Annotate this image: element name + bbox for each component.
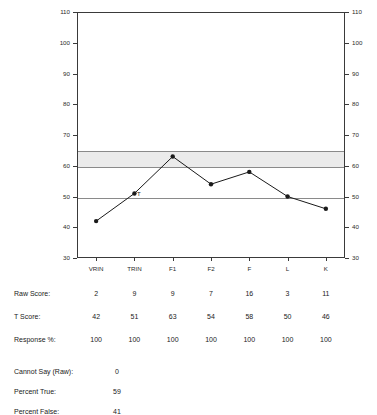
summary-label: Cannot Say (Raw): bbox=[14, 368, 73, 375]
data-point-F1 bbox=[171, 154, 175, 158]
y-tick-mark-right-80 bbox=[345, 104, 349, 105]
y-tick-label-left-70: 70 bbox=[44, 132, 70, 138]
y-tick-mark-right-60 bbox=[345, 166, 349, 167]
x-axis-label-F: F bbox=[229, 266, 269, 272]
x-axis-label-F2: F2 bbox=[191, 266, 231, 272]
y-tick-label-left-100: 100 bbox=[44, 40, 70, 46]
y-tick-label-right-30: 30 bbox=[352, 255, 377, 261]
y-tick-mark-right-70 bbox=[345, 135, 349, 136]
summary-label: Percent False: bbox=[14, 408, 59, 415]
table-cell-L: 3 bbox=[268, 290, 308, 297]
y-tick-label-right-70: 70 bbox=[352, 132, 377, 138]
table-cell-K: 11 bbox=[306, 290, 346, 297]
y-tick-label-left-30: 30 bbox=[44, 255, 70, 261]
y-tick-label-left-90: 90 bbox=[44, 71, 70, 77]
table-cell-TRIN: 100 bbox=[114, 336, 154, 343]
data-point-VRIN bbox=[94, 219, 98, 223]
y-tick-mark-right-30 bbox=[345, 258, 349, 259]
series-line-t-score bbox=[96, 157, 326, 222]
table-cell-K: 100 bbox=[306, 336, 346, 343]
y-tick-label-left-50: 50 bbox=[44, 194, 70, 200]
table-cell-F1: 63 bbox=[153, 313, 193, 320]
summary-value: 0 bbox=[108, 368, 126, 375]
y-tick-label-right-90: 90 bbox=[352, 71, 377, 77]
summary-value: 59 bbox=[108, 388, 126, 395]
y-tick-mark-right-90 bbox=[345, 74, 349, 75]
table-cell-L: 100 bbox=[268, 336, 308, 343]
table-cell-F1: 9 bbox=[153, 290, 193, 297]
data-point-F bbox=[247, 170, 251, 174]
x-tick-mark-TRIN bbox=[134, 258, 135, 261]
x-tick-mark-F bbox=[249, 258, 250, 261]
table-cell-F: 58 bbox=[229, 313, 269, 320]
table-cell-F: 16 bbox=[229, 290, 269, 297]
table-cell-F1: 100 bbox=[153, 336, 193, 343]
table-cell-VRIN: 2 bbox=[76, 290, 116, 297]
y-tick-label-left-110: 110 bbox=[44, 9, 70, 15]
y-tick-label-left-80: 80 bbox=[44, 101, 70, 107]
y-tick-mark-left-30 bbox=[73, 258, 77, 259]
table-row-label: Response %: bbox=[14, 336, 56, 343]
data-point-L bbox=[285, 194, 289, 198]
table-cell-K: 46 bbox=[306, 313, 346, 320]
score-table: Raw Score:299716311T Score:4251635458504… bbox=[0, 280, 377, 406]
table-cell-F2: 7 bbox=[191, 290, 231, 297]
table-cell-TRIN: 9 bbox=[114, 290, 154, 297]
y-tick-label-right-50: 50 bbox=[352, 194, 377, 200]
y-tick-label-left-60: 60 bbox=[44, 163, 70, 169]
y-tick-label-left-40: 40 bbox=[44, 224, 70, 230]
point-annotation-TRIN: T bbox=[137, 191, 141, 197]
x-axis-label-TRIN: TRIN bbox=[114, 266, 154, 272]
table-cell-TRIN: 51 bbox=[114, 313, 154, 320]
y-tick-mark-right-100 bbox=[345, 43, 349, 44]
table-cell-F2: 100 bbox=[191, 336, 231, 343]
x-axis-label-F1: F1 bbox=[153, 266, 193, 272]
table-row-label: T Score: bbox=[14, 313, 40, 320]
y-tick-label-right-80: 80 bbox=[352, 101, 377, 107]
y-tick-label-right-60: 60 bbox=[352, 163, 377, 169]
table-cell-F2: 54 bbox=[191, 313, 231, 320]
table-cell-L: 50 bbox=[268, 313, 308, 320]
y-tick-mark-right-110 bbox=[345, 12, 349, 13]
summary-label: Percent True: bbox=[14, 388, 56, 395]
x-tick-mark-F1 bbox=[173, 258, 174, 261]
validity-scale-profile-chart: 30405060708090100110 3040506070809010011… bbox=[0, 0, 377, 280]
x-tick-mark-VRIN bbox=[96, 258, 97, 261]
table-row-label: Raw Score: bbox=[14, 290, 50, 297]
y-tick-label-right-100: 100 bbox=[352, 40, 377, 46]
y-tick-label-right-40: 40 bbox=[352, 224, 377, 230]
table-cell-VRIN: 42 bbox=[76, 313, 116, 320]
table-cell-VRIN: 100 bbox=[76, 336, 116, 343]
y-tick-label-right-110: 110 bbox=[352, 9, 377, 15]
x-tick-mark-L bbox=[288, 258, 289, 261]
data-point-F2 bbox=[209, 182, 213, 186]
x-tick-mark-F2 bbox=[211, 258, 212, 261]
x-axis-label-K: K bbox=[306, 266, 346, 272]
x-axis-label-L: L bbox=[268, 266, 308, 272]
table-cell-F: 100 bbox=[229, 336, 269, 343]
summary-value: 41 bbox=[108, 408, 126, 415]
data-point-K bbox=[324, 207, 328, 211]
y-tick-mark-right-50 bbox=[345, 197, 349, 198]
x-axis-label-VRIN: VRIN bbox=[76, 266, 116, 272]
x-tick-mark-K bbox=[326, 258, 327, 261]
t-score-series bbox=[77, 12, 345, 258]
y-tick-mark-right-40 bbox=[345, 227, 349, 228]
